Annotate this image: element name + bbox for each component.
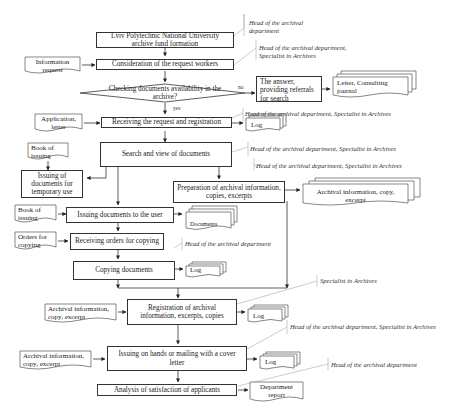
process-answer: The answer, providing referrals for sear… xyxy=(256,76,322,102)
archive-process-flowchart: Lviv Polytechnic National University arc… xyxy=(0,0,465,419)
doc-archival-info-in-2: Archival information, copy, excerpt xyxy=(20,350,91,366)
doc-log-4: Log xyxy=(262,356,292,366)
doc-log-2: Log xyxy=(187,264,217,274)
note-responsible-3: Head of the archival department, Special… xyxy=(245,110,391,118)
process-consideration: Consideration of the request workers xyxy=(96,59,234,70)
process-analysis: Analysis of satisfaction of applicants xyxy=(97,384,237,396)
doc-application-letter: Application, letter xyxy=(35,113,82,128)
doc-book-issuing-1: Book of issuing xyxy=(28,142,68,156)
label-yes: yes xyxy=(173,105,180,111)
note-responsible-2: Head of the archival department, Special… xyxy=(259,44,369,60)
process-receiving-request: Receiving the request and registration xyxy=(101,117,232,128)
process-receiving-orders: Receiving orders for copying xyxy=(70,233,164,250)
doc-letter-journal: Letter, Consulting journal xyxy=(334,77,406,93)
note-responsible-8: Head of the archival department, Special… xyxy=(290,323,436,331)
doc-orders-copying: Orders for copying xyxy=(15,231,56,246)
note-responsible-4: Head of the archival department, Special… xyxy=(250,145,396,153)
note-responsible-6: Head of the archival department xyxy=(185,240,271,248)
note-responsible-9: Head of the archival department xyxy=(331,361,417,369)
process-preparation: Preparation of archival information, cop… xyxy=(173,181,285,203)
process-fund-formation: Lviv Polytechnic National University arc… xyxy=(96,32,234,48)
doc-department-report: Department report xyxy=(250,381,303,398)
note-responsible-7: Specialist in Archives xyxy=(320,277,377,285)
doc-log-1: Log xyxy=(248,119,278,129)
note-responsible-5: Head of the archival department, Special… xyxy=(256,162,402,170)
note-responsible-1: Head of the archival department xyxy=(249,19,319,35)
process-copying: Copying documents xyxy=(73,261,175,280)
process-search: Search and view of documents xyxy=(100,142,232,167)
label-no: no xyxy=(238,84,244,90)
diamond-label-checking: Checking documents availability in the a… xyxy=(95,88,235,98)
doc-archival-info-out: Archival information, copy, excerpt xyxy=(303,186,408,200)
doc-log-3: Log xyxy=(250,310,280,320)
process-issuing-hands: Issuing on hands or mailing with a cover… xyxy=(107,346,247,371)
process-issuing-user: Issuing documents to the user xyxy=(66,207,174,223)
doc-archival-info-in-1: Archival information, copy, excerpt xyxy=(45,303,116,319)
doc-information-request: Information request xyxy=(25,56,80,70)
doc-documents: Documents xyxy=(187,219,231,228)
doc-book-issuing-2: Book of issuing xyxy=(15,204,56,219)
process-issuing-temporary: Issuing of documents for temporary use xyxy=(21,170,83,198)
process-registration: Registration of archival information, ex… xyxy=(127,299,237,325)
